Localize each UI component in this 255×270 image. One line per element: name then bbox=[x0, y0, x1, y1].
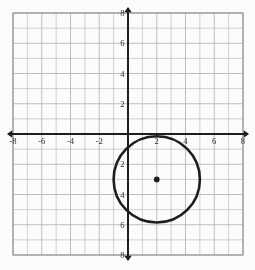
x-tick-label: 4 bbox=[183, 136, 188, 146]
x-tick-label: 8 bbox=[241, 136, 245, 146]
y-tick-label: 2 bbox=[120, 99, 124, 109]
x-tick-label: 2 bbox=[155, 136, 159, 146]
x-tick-label: -2 bbox=[96, 136, 103, 146]
y-tick-label: 2 bbox=[120, 159, 124, 169]
x-tick-label: -6 bbox=[38, 136, 46, 146]
y-tick-label: 6 bbox=[120, 38, 125, 48]
graph-canvas: -8-6-4-2246886422468 bbox=[0, 0, 255, 270]
x-tick-label: 6 bbox=[212, 136, 217, 146]
coordinate-plane-figure: -8-6-4-2246886422468 bbox=[0, 0, 255, 270]
y-tick-label: 6 bbox=[120, 220, 125, 230]
x-tick-label: -8 bbox=[9, 136, 16, 146]
y-tick-label: 8 bbox=[120, 8, 124, 18]
x-tick-label: -4 bbox=[67, 136, 75, 146]
y-tick-label: 4 bbox=[120, 69, 125, 79]
y-tick-label: 4 bbox=[120, 190, 125, 200]
y-tick-label: 8 bbox=[120, 250, 124, 260]
